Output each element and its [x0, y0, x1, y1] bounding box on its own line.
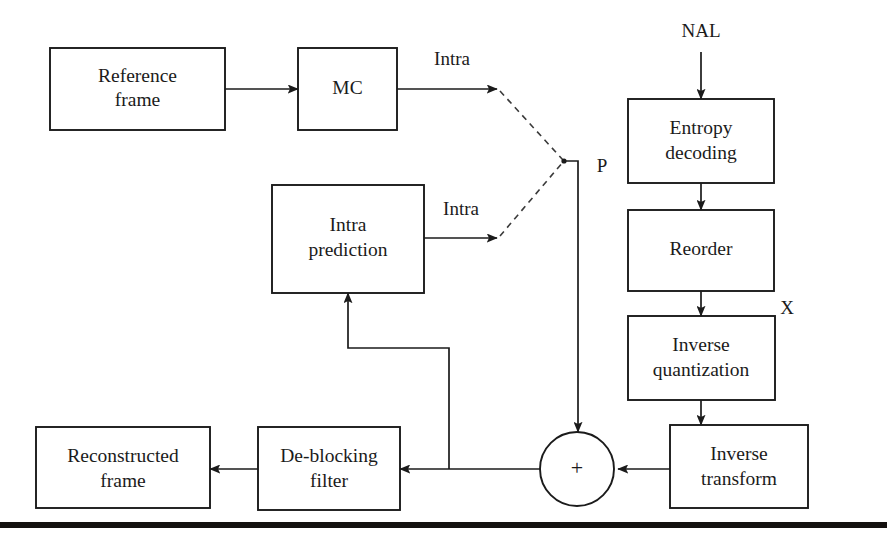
block-mc[interactable]: MC — [298, 48, 397, 130]
signal-label-nal: NAL — [681, 20, 720, 41]
summation-plus-symbol: + — [571, 455, 583, 480]
block-deblocking-filter[interactable]: De-blocking filter — [258, 427, 400, 510]
block-reconstructed-frame-label-line1: Reconstructed — [67, 445, 179, 466]
signal-label-p: P — [597, 155, 608, 176]
block-reorder[interactable]: Reorder — [628, 210, 774, 291]
block-deblocking-filter-label-line1: De-blocking — [280, 445, 378, 466]
edge-label-intra-bottom: Intra — [443, 198, 479, 219]
figure-root: Reference frame MC Intra prediction Entr… — [0, 0, 887, 550]
block-intra-prediction[interactable]: Intra prediction — [272, 185, 424, 293]
block-intra-prediction-label-line1: Intra — [330, 214, 367, 235]
signal-label-x: X — [780, 297, 794, 318]
block-reference-frame-label-line1: Reference — [98, 65, 177, 86]
block-deblocking-filter-rect — [258, 427, 400, 510]
switch-blade-upper-dashed — [500, 91, 563, 160]
block-reference-frame-label-line2: frame — [115, 89, 160, 110]
block-inverse-transform-label-line2: transform — [701, 468, 777, 489]
decoder-block-diagram: Reference frame MC Intra prediction Entr… — [0, 0, 887, 550]
block-entropy-decoding-label-line2: decoding — [665, 142, 737, 163]
block-deblocking-filter-label-line2: filter — [310, 470, 348, 491]
bottom-rule-bar — [0, 522, 887, 528]
block-inverse-quantization-label-line1: Inverse — [672, 334, 729, 355]
switch-blade-lower-dashed — [500, 162, 563, 236]
block-mc-label-line1: MC — [332, 77, 362, 98]
block-reference-frame[interactable]: Reference frame — [50, 48, 225, 130]
block-entropy-decoding-label-line1: Entropy — [670, 117, 733, 138]
connector-switch-to-summation-p — [564, 161, 578, 432]
block-inverse-transform-label-line1: Inverse — [710, 443, 767, 464]
block-entropy-decoding[interactable]: Entropy decoding — [628, 99, 774, 183]
block-inverse-quantization-label-line2: quantization — [653, 359, 750, 380]
node-summation[interactable]: + — [540, 432, 614, 506]
block-reconstructed-frame-rect — [36, 427, 210, 508]
block-reconstructed-frame[interactable]: Reconstructed frame — [36, 427, 210, 508]
block-inverse-quantization-rect — [628, 316, 775, 400]
block-inverse-transform-rect — [670, 425, 808, 508]
block-entropy-decoding-rect — [628, 99, 774, 183]
block-reconstructed-frame-label-line2: frame — [100, 470, 145, 491]
block-reorder-label-line1: Reorder — [670, 238, 733, 259]
block-inverse-quantization[interactable]: Inverse quantization — [628, 316, 775, 400]
block-intra-prediction-label-line2: prediction — [308, 239, 387, 260]
block-inverse-transform[interactable]: Inverse transform — [670, 425, 808, 508]
edge-label-intra-top: Intra — [434, 48, 470, 69]
